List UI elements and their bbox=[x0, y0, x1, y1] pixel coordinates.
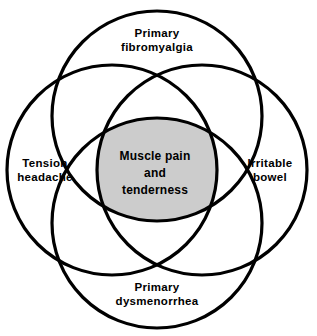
label-primary-dysmenorrhea-line1: Primary bbox=[135, 281, 180, 293]
label-irritable-bowel-line1: Irritable bbox=[248, 157, 293, 169]
label-primary-fibromyalgia-line2: fibromyalgia bbox=[121, 41, 193, 53]
label-tension-headache-line1: Tension bbox=[22, 157, 67, 169]
label-muscle-pain-line3: tenderness bbox=[122, 183, 188, 197]
label-tension-headache-line2: headache bbox=[17, 171, 72, 183]
venn-diagram-figure: Primary fibromyalgia Tension headache Ir… bbox=[0, 0, 317, 336]
label-primary-dysmenorrhea-line2: dysmenorrhea bbox=[116, 295, 199, 307]
label-muscle-pain-line2: and bbox=[144, 166, 166, 180]
label-primary-fibromyalgia-line1: Primary bbox=[135, 27, 180, 39]
venn-diagram-canvas: Primary fibromyalgia Tension headache Ir… bbox=[0, 0, 317, 336]
label-muscle-pain-line1: Muscle pain bbox=[120, 149, 191, 163]
label-irritable-bowel-line2: bowel bbox=[253, 171, 287, 183]
